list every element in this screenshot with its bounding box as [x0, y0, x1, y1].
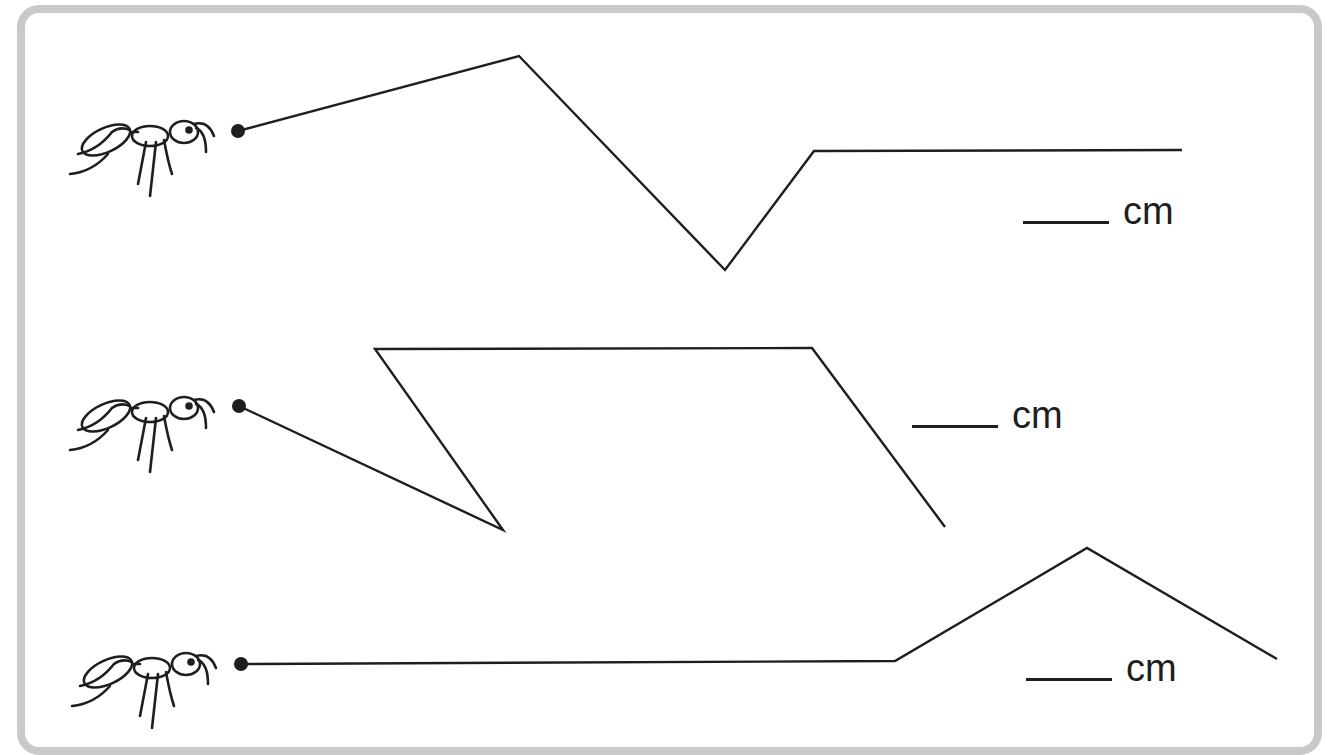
ant-icon [72, 650, 216, 728]
path-line-3 [241, 548, 1277, 664]
answer-row-2: cm [912, 396, 1063, 434]
answer-blank-2[interactable] [912, 425, 998, 428]
path-row-3 [72, 548, 1277, 728]
path-row-2 [70, 348, 945, 530]
path-line-1 [238, 56, 1182, 270]
unit-label: cm [1123, 192, 1174, 230]
ant-icon [70, 394, 214, 472]
answer-blank-3[interactable] [1026, 678, 1112, 681]
answer-blank-1[interactable] [1023, 221, 1109, 224]
answer-row-1: cm [1023, 192, 1174, 230]
ant-icon [70, 118, 214, 196]
path-line-2 [239, 348, 945, 530]
unit-label: cm [1126, 649, 1177, 687]
path-row-1 [70, 56, 1182, 270]
answer-row-3: cm [1026, 649, 1177, 687]
unit-label: cm [1012, 396, 1063, 434]
